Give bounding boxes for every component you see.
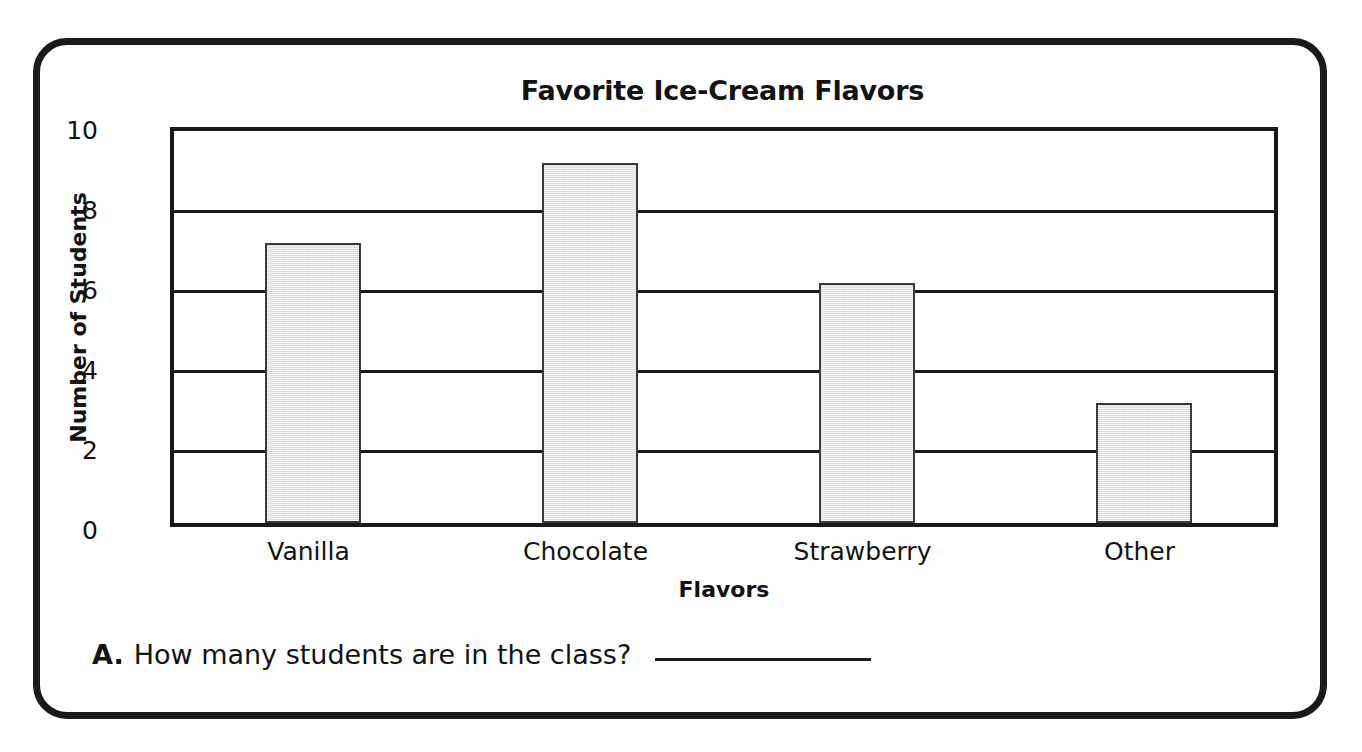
y-tick-label: 4	[38, 358, 98, 383]
question-letter: A.	[92, 639, 124, 670]
chart-title: Favorite Ice-Cream Flavors	[170, 75, 1275, 106]
y-tick-label: 10	[38, 118, 98, 143]
plot-area: 1086420	[170, 127, 1278, 527]
x-axis-title: Flavors	[170, 577, 1278, 602]
x-tick-label-chocolate: Chocolate	[447, 537, 724, 566]
question-text: How many students are in the class?	[134, 639, 632, 670]
x-tick-label-other: Other	[1001, 537, 1278, 566]
bar-other	[1096, 403, 1192, 523]
x-tick-label-strawberry: Strawberry	[724, 537, 1001, 566]
question-row: A. How many students are in the class?	[92, 639, 871, 670]
x-tick-label-vanilla: Vanilla	[170, 537, 447, 566]
gridline	[174, 210, 1274, 213]
answer-blank-input[interactable]	[655, 658, 871, 661]
bar-strawberry	[819, 283, 915, 523]
y-tick-label: 2	[38, 438, 98, 463]
y-tick-label: 8	[38, 198, 98, 223]
y-tick-label: 6	[38, 278, 98, 303]
bar-chart-figure: Favorite Ice-Cream Flavors Number of Stu…	[40, 45, 1334, 605]
bar-vanilla	[265, 243, 361, 523]
bar-chocolate	[542, 163, 638, 523]
y-tick-label: 0	[38, 518, 98, 543]
worksheet-card: Favorite Ice-Cream Flavors Number of Stu…	[33, 38, 1327, 719]
